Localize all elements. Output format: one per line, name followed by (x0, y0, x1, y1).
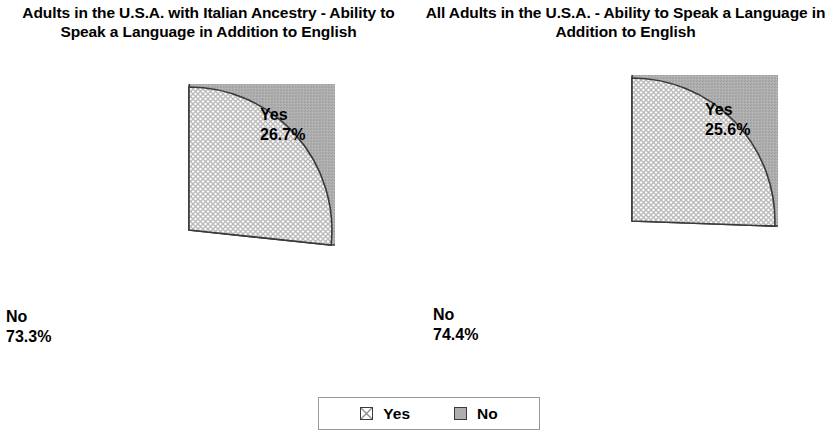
legend-label-no: No (477, 406, 498, 421)
pie-label-no-left: No 73.3% (6, 307, 51, 346)
legend-label-yes: Yes (383, 406, 410, 421)
legend-swatch-no-icon (454, 407, 467, 420)
chart-title-left: Adults in the U.S.A. with Italian Ancest… (0, 3, 417, 41)
chart-legend: Yes No (318, 397, 540, 430)
pie-label-yes-left: Yes 26.7% (260, 105, 305, 144)
pie-chart-figure: Adults in the U.S.A. with Italian Ancest… (0, 0, 834, 435)
chart-panel-italian-ancestry: Adults in the U.S.A. with Italian Ancest… (0, 0, 417, 390)
pie-label-yes-right: Yes 25.6% (705, 100, 750, 139)
legend-swatch-yes-icon (360, 407, 373, 420)
chart-panel-all-adults: All Adults in the U.S.A. - Ability to Sp… (417, 0, 834, 390)
legend-item-yes: Yes (360, 406, 410, 421)
chart-title-right: All Adults in the U.S.A. - Ability to Sp… (417, 3, 834, 41)
legend-item-no: No (454, 406, 498, 421)
pie-label-no-right: No 74.4% (433, 305, 478, 344)
